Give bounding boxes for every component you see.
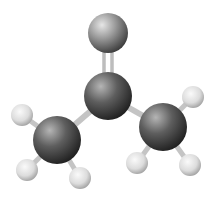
hydrogen-atom-3 (69, 167, 91, 189)
carbon-atom-right (139, 103, 187, 151)
carbon-atom-left (33, 116, 81, 164)
oxygen-atom (88, 13, 128, 53)
acetone-molecule-model (0, 0, 219, 197)
hydrogen-atom-5 (126, 152, 148, 174)
hydrogen-atom-4 (182, 86, 204, 108)
hydrogen-atom-6 (179, 154, 201, 176)
hydrogen-atom-2 (16, 159, 38, 181)
hydrogen-atom-1 (11, 104, 33, 126)
carbon-atom-central (84, 72, 132, 120)
